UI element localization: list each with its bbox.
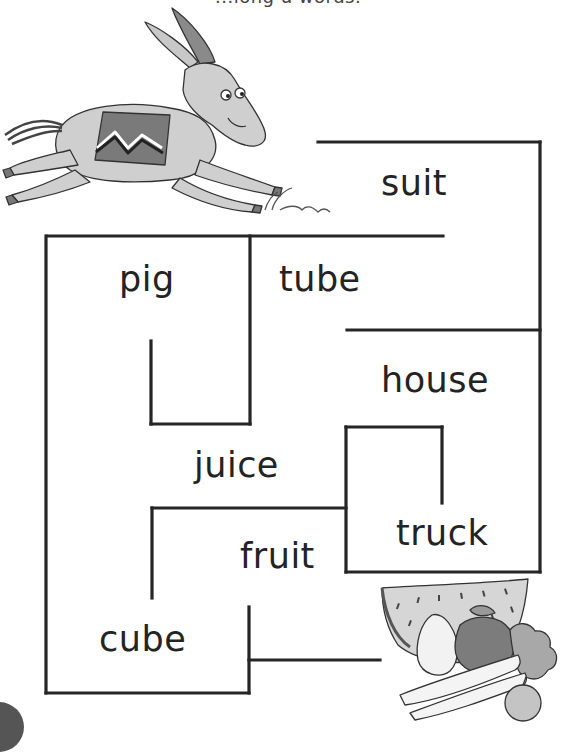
maze-word-suit[interactable]: suit <box>381 166 447 201</box>
maze-word-juice[interactable]: juice <box>194 448 279 483</box>
maze-word-fruit[interactable]: fruit <box>240 539 315 574</box>
maze-word-tube[interactable]: tube <box>279 262 361 297</box>
maze-word-pig[interactable]: pig <box>119 262 175 297</box>
maze-word-truck[interactable]: truck <box>396 516 488 551</box>
maze-word-cube[interactable]: cube <box>99 622 186 657</box>
maze-word-house[interactable]: house <box>381 363 489 398</box>
fruit-illustration <box>370 575 575 727</box>
